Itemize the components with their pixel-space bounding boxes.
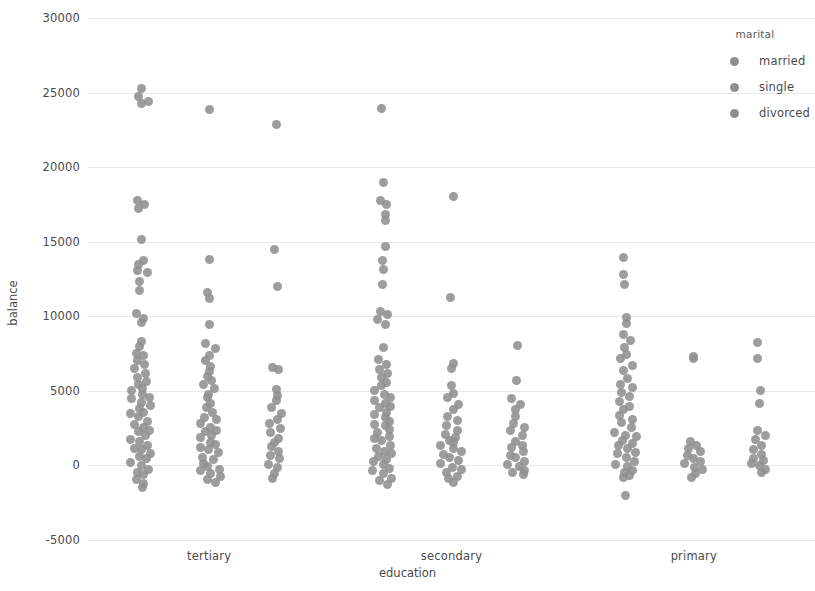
data-point (264, 460, 273, 469)
data-point (761, 431, 770, 440)
data-point (370, 410, 379, 419)
data-point (507, 394, 516, 403)
data-point (513, 341, 522, 350)
data-point (274, 365, 283, 374)
x-tick-label: tertiary (187, 549, 231, 563)
data-point (205, 255, 214, 264)
gridline (88, 167, 815, 168)
data-point (205, 320, 214, 329)
data-point (273, 282, 282, 291)
data-point (205, 294, 214, 303)
data-point (382, 200, 391, 209)
data-point (447, 364, 456, 373)
data-point (436, 459, 445, 468)
data-point (379, 343, 388, 352)
data-point (611, 460, 620, 469)
data-point (449, 192, 458, 201)
data-point (755, 399, 764, 408)
data-point (379, 265, 388, 274)
y-tick-label: 30000 (42, 11, 80, 25)
data-point (621, 491, 630, 500)
data-point (628, 383, 637, 392)
data-point (619, 253, 628, 262)
gridline (88, 540, 815, 541)
x-tick-label: primary (671, 549, 717, 563)
legend-item-married[interactable]: married (700, 48, 810, 74)
data-point (272, 120, 281, 129)
data-point (133, 266, 142, 275)
y-tick-label: 0 (72, 458, 80, 472)
data-point (443, 393, 452, 402)
data-point (267, 403, 276, 412)
data-point (449, 478, 458, 487)
data-point (381, 242, 390, 251)
legend-item-divorced[interactable]: divorced (700, 100, 810, 126)
data-point (453, 416, 462, 425)
data-point (756, 386, 765, 395)
data-point (619, 270, 628, 279)
data-point (511, 453, 520, 462)
legend-entries: marriedsingledivorced (700, 48, 810, 126)
data-point (275, 454, 284, 463)
data-point (270, 245, 279, 254)
data-point (680, 459, 689, 468)
data-point (757, 441, 766, 450)
y-tick-label: 25000 (42, 86, 80, 100)
data-point (135, 286, 144, 295)
y-tick-label: 20000 (42, 160, 80, 174)
y-tick-label: 5000 (50, 384, 80, 398)
data-point (196, 466, 205, 475)
legend: marital marriedsingledivorced (700, 28, 810, 126)
data-point (622, 319, 631, 328)
x-axis-label: education (0, 566, 815, 580)
data-point (619, 473, 628, 482)
data-point (698, 465, 707, 474)
data-point (134, 204, 143, 213)
y-tick-label: 10000 (42, 309, 80, 323)
y-axis-label: balance (6, 268, 20, 338)
data-point (143, 268, 152, 277)
legend-marker-icon (730, 109, 739, 118)
data-point (137, 99, 146, 108)
data-point (442, 421, 451, 430)
data-point (446, 293, 455, 302)
data-point (512, 376, 521, 385)
data-point (613, 449, 622, 458)
y-tick-label: -5000 (46, 533, 80, 547)
data-point (610, 428, 619, 437)
data-point (508, 468, 517, 477)
gridline (88, 242, 815, 243)
data-point (127, 394, 136, 403)
data-point (385, 432, 394, 441)
data-point (436, 441, 445, 450)
data-point (137, 235, 146, 244)
data-point (268, 474, 277, 483)
x-tick-label: secondary (421, 549, 482, 563)
data-point (378, 280, 387, 289)
data-point (379, 178, 388, 187)
data-point (126, 435, 135, 444)
data-point (627, 423, 636, 432)
legend-marker-icon (730, 83, 739, 92)
data-point (383, 480, 392, 489)
data-point (506, 426, 515, 435)
data-point (519, 470, 528, 479)
gridline (88, 18, 815, 19)
data-point (276, 424, 285, 433)
data-point (519, 447, 528, 456)
data-point (135, 277, 144, 286)
data-point (211, 478, 220, 487)
data-point (368, 466, 377, 475)
data-point (201, 339, 210, 348)
data-point (617, 418, 626, 427)
data-point (443, 412, 452, 421)
data-point (140, 360, 149, 369)
data-point (381, 216, 390, 225)
data-point (266, 451, 275, 460)
legend-label: single (759, 80, 794, 94)
data-point (383, 310, 392, 319)
strip-plot-figure: balance education marital marriedsingled… (0, 0, 815, 591)
gridline (88, 316, 815, 317)
data-point (370, 386, 379, 395)
legend-item-single[interactable]: single (700, 74, 810, 100)
